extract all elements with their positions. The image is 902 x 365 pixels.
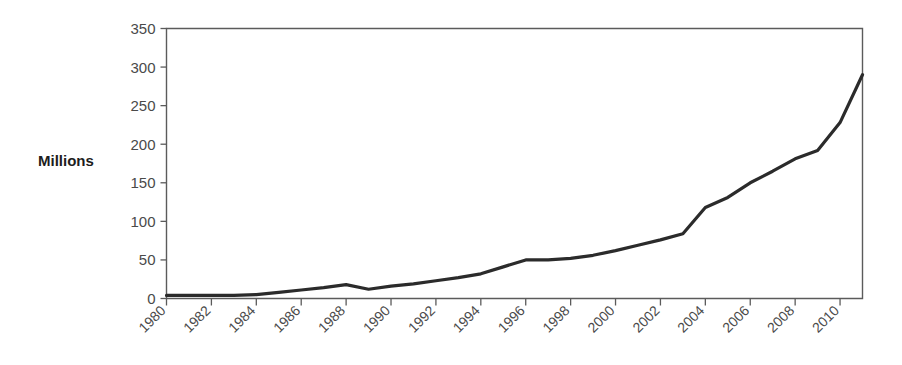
x-tick-label: 2000 [584,302,617,335]
data-series-group [167,75,863,296]
y-tick-label: 150 [130,174,155,191]
plot-frame-border [167,29,863,299]
x-tick-label: 1982 [180,302,213,335]
y-tick-label: 350 [130,20,155,37]
x-tick-label: 1980 [135,302,168,335]
y-tick-label: 300 [130,59,155,76]
x-tick-label: 1984 [225,302,258,335]
chart-container: 050100150200250300350 198019821984198619… [0,0,902,365]
data-line-millions [167,75,863,296]
x-tick-label: 1998 [539,302,572,335]
y-tick-label: 200 [130,136,155,153]
x-tick-label: 2004 [674,302,707,335]
x-tick-label: 1996 [495,302,528,335]
x-tick-label: 1994 [450,302,483,335]
y-tick-label: 250 [130,97,155,114]
y-tick-label: 50 [139,251,156,268]
x-tick-label: 2010 [809,302,842,335]
x-tick-label: 1990 [360,302,393,335]
y-axis-ticks: 050100150200250300350 [130,20,166,307]
x-tick-label: 2002 [629,302,662,335]
x-tick-label: 1986 [270,302,303,335]
y-tick-label: 100 [130,213,155,230]
plot-frame [167,29,863,299]
x-tick-label: 1988 [315,302,348,335]
y-axis-title: Millions [38,152,94,169]
x-tick-label: 1992 [405,302,438,335]
x-tick-label: 2008 [764,302,797,335]
x-tick-label: 2006 [719,302,752,335]
line-chart: 050100150200250300350 198019821984198619… [0,0,902,365]
x-axis-ticks: 1980198219841986198819901992199419961998… [135,299,842,336]
